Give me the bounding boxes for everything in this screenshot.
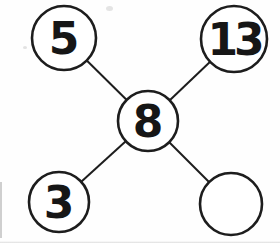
node-bottom-right-empty-answer-circle[interactable] bbox=[200, 173, 262, 235]
node-center-value: 8 bbox=[133, 96, 164, 147]
number-bond-diagram: 85133 bbox=[0, 0, 280, 243]
node-bottom-left-value: 3 bbox=[44, 177, 75, 228]
bond-svg: 85133 bbox=[0, 0, 280, 243]
node-top-left-value: 5 bbox=[49, 13, 80, 64]
node-top-right-value: 13 bbox=[207, 14, 262, 65]
